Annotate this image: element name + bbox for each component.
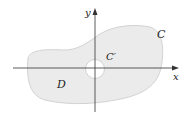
x-axis-arrow-icon bbox=[172, 66, 179, 71]
region-label: D bbox=[56, 78, 66, 91]
outer-curve-label: C bbox=[157, 28, 166, 41]
y-axis-label: y bbox=[84, 7, 91, 18]
inner-curve-label: C′ bbox=[106, 51, 117, 62]
region-diagram: y x C C′ D bbox=[0, 0, 191, 120]
x-axis-label: x bbox=[173, 71, 179, 82]
y-axis-arrow-icon bbox=[93, 8, 98, 15]
